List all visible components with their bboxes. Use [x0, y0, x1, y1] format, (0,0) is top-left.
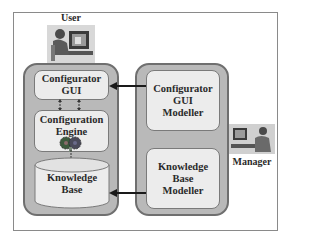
configuration-engine-line1: Configuration — [40, 114, 104, 126]
kb-modeller-to-kb-arrow — [108, 188, 146, 198]
gui-modeller-line2: GUI — [173, 95, 193, 107]
gui-modeller-line3: Modeller — [163, 107, 204, 119]
kb-modeller-line2: Base — [173, 173, 194, 185]
knowledge-base-line1: Knowledge — [34, 172, 110, 184]
configurator-gui-line1: Configurator — [42, 73, 102, 85]
manager-icon — [229, 124, 275, 154]
kb-modeller-line1: Knowledge — [158, 161, 208, 173]
configurator-gui-modeller-box: Configurator GUI Modeller — [146, 70, 220, 131]
gui-modeller-line1: Configurator — [153, 83, 213, 95]
configurator-gui-line2: GUI — [62, 85, 82, 97]
knowledge-base-modeller-box: Knowledge Base Modeller — [146, 148, 220, 209]
user-label: User — [47, 12, 95, 23]
knowledge-base-text: Knowledge Base — [34, 172, 110, 196]
kb-modeller-line3: Modeller — [163, 185, 204, 197]
gui-modeller-to-gui-arrow — [108, 81, 146, 91]
configurator-gui-box: Configurator GUI — [34, 70, 109, 100]
knowledge-base-line2: Base — [34, 184, 110, 196]
user-icon — [47, 25, 95, 63]
manager-label: Manager — [226, 156, 278, 167]
